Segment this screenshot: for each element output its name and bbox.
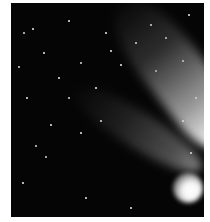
star bbox=[85, 197, 87, 199]
star bbox=[35, 145, 37, 147]
star bbox=[80, 132, 82, 134]
star bbox=[23, 32, 25, 34]
star bbox=[188, 14, 190, 16]
star bbox=[50, 124, 52, 126]
comet-nucleus bbox=[173, 173, 203, 203]
star bbox=[120, 64, 122, 66]
comet-photo bbox=[11, 3, 204, 217]
star bbox=[105, 32, 107, 34]
star bbox=[80, 62, 82, 64]
star bbox=[45, 156, 47, 158]
star bbox=[32, 28, 34, 30]
star bbox=[18, 66, 20, 68]
star bbox=[22, 182, 24, 184]
star bbox=[43, 52, 45, 54]
star bbox=[68, 20, 70, 22]
star bbox=[58, 77, 60, 79]
star bbox=[130, 207, 132, 209]
star bbox=[110, 50, 112, 52]
star bbox=[26, 97, 28, 99]
star bbox=[68, 97, 71, 100]
